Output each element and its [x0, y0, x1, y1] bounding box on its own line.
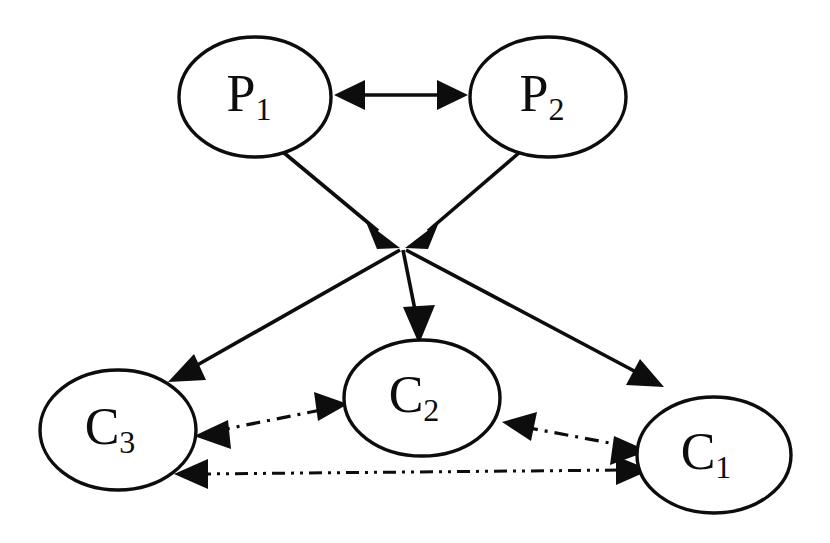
edge-p1-p2-arrowhead-start: [334, 80, 365, 110]
edge-p1-hub[interactable]: [283, 152, 400, 249]
node-p2-subscript: 2: [548, 91, 564, 127]
edge-p2-hub-line: [428, 152, 520, 231]
edge-c2-c1-arrowhead-start: [502, 412, 537, 441]
node-p1-base: P: [227, 65, 256, 122]
edge-hub-c1-arrowhead: [626, 359, 664, 387]
edge-p1-hub-line: [283, 152, 378, 231]
node-c3-base: C: [85, 398, 120, 455]
diagram-canvas: P1 P2 C3 C2: [0, 0, 830, 543]
edge-c3-c2-arrowhead-start: [194, 420, 231, 449]
edge-c3-c1[interactable]: [174, 456, 650, 489]
node-c3[interactable]: C3: [40, 370, 196, 490]
node-p1-subscript: 1: [255, 91, 271, 127]
node-c1-subscript: 1: [715, 449, 731, 485]
edge-hub-c2-arrowhead: [403, 305, 435, 344]
edge-p1-p2[interactable]: [334, 80, 468, 110]
node-p2-base: P: [520, 65, 549, 122]
edge-c3-c2-line: [216, 409, 326, 431]
edge-hub-c3-line: [192, 250, 400, 368]
edge-c2-c1-line: [524, 427, 626, 446]
edge-p2-hub-arrowhead: [405, 222, 439, 249]
edge-hub-c3-arrowhead: [168, 354, 206, 382]
node-c2[interactable]: C2: [344, 340, 500, 456]
edge-c2-c1[interactable]: [502, 412, 648, 465]
edge-p2-hub[interactable]: [405, 152, 520, 249]
relationship-diagram: P1 P2 C3 C2: [0, 0, 830, 543]
node-c2-base: C: [389, 366, 424, 423]
node-p1[interactable]: P1: [179, 37, 331, 157]
edge-p1-hub-arrowhead: [366, 222, 400, 249]
node-c3-subscript: 3: [119, 424, 135, 460]
edge-hub-c2-line: [403, 250, 416, 315]
edge-p1-p2-arrowhead-end: [437, 80, 468, 110]
node-c1-base: C: [681, 423, 716, 480]
node-c2-subscript: 2: [423, 392, 439, 428]
node-c1[interactable]: C1: [637, 397, 791, 513]
node-layer: P1 P2 C3 C2: [40, 37, 791, 513]
edge-c3-c2[interactable]: [194, 392, 348, 449]
node-p2[interactable]: P2: [470, 37, 626, 157]
edge-c3-c1-line: [198, 470, 626, 474]
